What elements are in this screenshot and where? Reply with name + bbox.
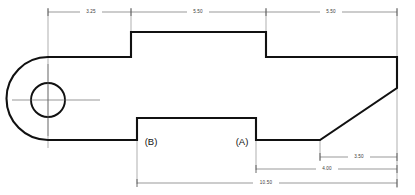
datum-label-a: (A) [236,136,249,147]
dim-400-text: 4.00 [322,166,332,171]
dim-top-middle-text: 5.50 [193,9,203,14]
top-dimension-chain: 3.25 5.50 5.50 [48,7,397,16]
part-outline-path [6,32,397,140]
datum-label-b: (B) [145,136,158,147]
dimension-4-00: 4.00 [256,164,397,173]
dim-top-right-text: 5.50 [326,9,336,14]
dimension-10-50: 10.50 [137,178,397,187]
dim-top-left-text: 3.25 [86,9,96,14]
engineering-drawing-canvas: 3.25 5.50 5.50 3.50 4.00 10.50 [0,0,415,195]
extension-lines [48,9,397,188]
dim-1050-text: 10.50 [260,180,273,185]
hole-centerlines [12,64,100,136]
dim-350-text: 3.50 [354,154,364,159]
drawing-svg: 3.25 5.50 5.50 3.50 4.00 10.50 [0,0,415,195]
dimension-3-50: 3.50 [320,152,397,161]
